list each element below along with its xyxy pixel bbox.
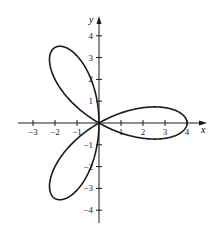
- y-tick-label: 1: [89, 96, 94, 106]
- y-tick-label: −3: [83, 183, 93, 193]
- y-tick-label: −1: [83, 140, 93, 150]
- y-tick-label: −4: [83, 205, 93, 215]
- y-axis-label: y: [88, 14, 94, 25]
- x-axis-label: x: [200, 124, 206, 135]
- x-tick-label: 3: [163, 127, 168, 137]
- x-tick-label: −3: [28, 127, 38, 137]
- axes: [18, 16, 207, 223]
- y-tick-label: 3: [89, 53, 94, 63]
- y-axis-arrow-icon: [97, 16, 102, 24]
- polar-rose-chart: −3−2−11234−4−3−2−11234 x y: [0, 0, 219, 234]
- x-tick-label: 2: [141, 127, 146, 137]
- y-tick-label: 4: [89, 31, 94, 41]
- x-tick-label: −2: [50, 127, 60, 137]
